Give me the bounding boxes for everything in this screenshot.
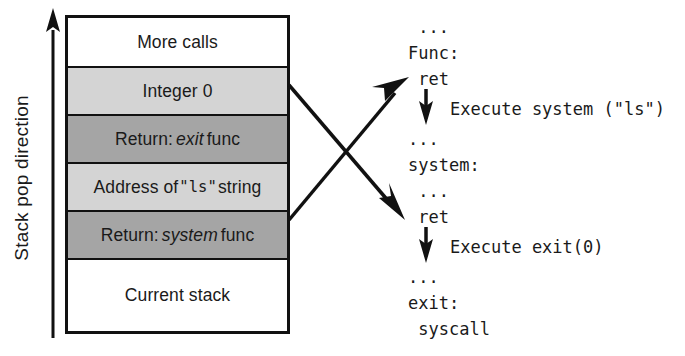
stack-row-more-calls: More calls: [68, 18, 287, 66]
stack-pop-direction-arrow-icon: [44, 8, 62, 338]
stack-row-label-suffix: string: [218, 177, 261, 198]
stack-row-label-suffix: func: [221, 225, 254, 246]
call-stack-box: More calls Integer 0 Return: exit func A…: [65, 15, 290, 334]
code-line: ...: [408, 14, 678, 40]
stack-row-address-of-ls: Address of "ls" string: [68, 162, 287, 210]
execute-exit-label: Execute exit(0): [450, 234, 604, 260]
stack-row-label-prefix: Return:: [115, 129, 173, 150]
stack-row-label: More calls: [137, 32, 218, 53]
execution-trace-column: ... Func: ret Execute system ("ls") ... …: [408, 14, 678, 350]
stack-pop-direction-label: Stack pop direction: [0, 0, 44, 356]
code-line-func-label: Func:: [408, 40, 678, 66]
down-arrow-icon: [416, 227, 436, 263]
stack-row-label: Current stack: [125, 285, 230, 306]
stack-row-label-suffix: func: [207, 129, 240, 150]
execute-exit-annotation: Execute exit(0): [408, 230, 678, 264]
stack-row-label: Integer 0: [143, 81, 213, 102]
stack-row-label-prefix: Return:: [101, 225, 159, 246]
down-arrow-icon: [416, 89, 436, 125]
stack-overflow-ret2libc-diagram: Stack pop direction More calls Integer 0…: [0, 0, 685, 356]
stack-row-current-stack: Current stack: [68, 258, 287, 331]
stack-row-label-emphasis: exit: [173, 129, 207, 150]
connector-arrows-group: [285, 55, 420, 240]
stack-row-label-emphasis: "ls": [178, 178, 218, 196]
stack-row-return-system: Return: system func: [68, 210, 287, 258]
code-line-ret-system: ret: [408, 204, 678, 230]
stack-row-integer-0: Integer 0: [68, 66, 287, 114]
stack-row-label-prefix: Address of: [94, 177, 179, 198]
execute-system-annotation: Execute system ("ls"): [408, 92, 678, 126]
code-line-ret-func: ret: [408, 66, 678, 92]
stack-row-return-exit: Return: exit func: [68, 114, 287, 162]
stack-row-label-emphasis: system: [159, 225, 221, 246]
execute-system-label: Execute system ("ls"): [450, 96, 665, 122]
